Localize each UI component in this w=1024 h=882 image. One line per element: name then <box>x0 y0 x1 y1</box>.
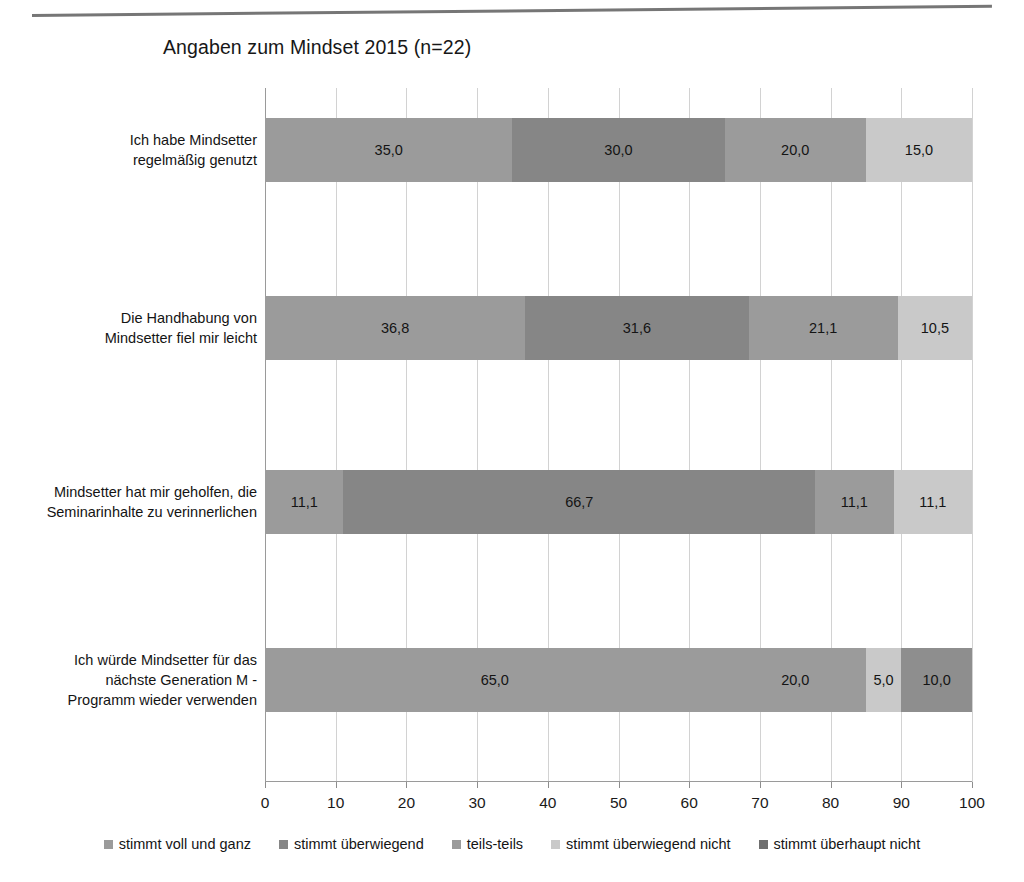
bar-segment-value: 20,0 <box>781 672 809 688</box>
bar-segment[interactable]: 10,0 <box>901 648 972 712</box>
bar-segment[interactable]: 5,0 <box>866 648 901 712</box>
bar-segment-value: 11,1 <box>919 494 946 510</box>
legend-swatch-icon <box>104 840 113 849</box>
legend-item[interactable]: stimmt überwiegend nicht <box>551 836 730 852</box>
bar-series-container: 35,030,020,015,036,831,621,110,511,166,7… <box>265 88 972 782</box>
bar-segment-value: 65,0 <box>481 672 509 688</box>
bar-segment[interactable]: 20,0 <box>725 648 866 712</box>
x-tick-label: 30 <box>468 794 485 812</box>
category-label-line: Mindsetter hat mir geholfen, die <box>7 482 257 502</box>
bar-segment[interactable]: 21,1 <box>749 296 898 360</box>
bar-segment[interactable]: 20,0 <box>725 118 866 182</box>
legend-label: stimmt überwiegend <box>294 836 424 852</box>
category-label-line: Programm wieder verwenden <box>7 690 257 710</box>
x-tick <box>901 782 902 788</box>
legend-label: teils-teils <box>467 836 523 852</box>
legend-item[interactable]: stimmt voll und ganz <box>104 836 251 852</box>
category-label-line: Die Handhabung von <box>7 308 257 328</box>
bar-segment-value: 11,1 <box>841 494 868 510</box>
bar-segment-value: 11,1 <box>291 494 318 510</box>
bar-segment[interactable]: 66,7 <box>343 470 815 534</box>
category-label-line: Ich würde Mindsetter für das <box>7 650 257 670</box>
bar-row[interactable]: 35,030,020,015,0 <box>265 118 972 182</box>
bar-segment-value: 66,7 <box>565 494 593 510</box>
x-tick <box>972 782 973 788</box>
bar-segment[interactable]: 11,1 <box>265 470 343 534</box>
bar-segment[interactable]: 10,5 <box>898 296 972 360</box>
bar-row[interactable]: 11,166,711,111,1 <box>265 470 972 534</box>
bar-segment[interactable]: 30,0 <box>512 118 724 182</box>
legend-label: stimmt überhaupt nicht <box>774 836 921 852</box>
x-tick <box>265 782 266 788</box>
category-label-line: Seminarinhalte zu verinnerlichen <box>7 502 257 522</box>
legend-item[interactable]: teils-teils <box>452 836 523 852</box>
x-tick-label: 10 <box>327 794 344 812</box>
bar-segment[interactable]: 11,1 <box>894 470 972 534</box>
category-label-line: nächste Generation M - <box>7 670 257 690</box>
bar-segment[interactable]: 35,0 <box>265 118 512 182</box>
bar-segment[interactable]: 65,0 <box>265 648 725 712</box>
x-tick-label: 80 <box>822 794 839 812</box>
bar-segment-value: 15,0 <box>905 142 933 158</box>
x-tick <box>477 782 478 788</box>
x-tick-label: 50 <box>610 794 627 812</box>
x-tick <box>548 782 549 788</box>
x-tick-label: 60 <box>681 794 698 812</box>
legend-swatch-icon <box>551 840 560 849</box>
x-tick <box>619 782 620 788</box>
bar-segment[interactable]: 15,0 <box>866 118 972 182</box>
bar-segment-value: 21,1 <box>809 320 837 336</box>
x-tick-label: 90 <box>893 794 910 812</box>
gridline <box>972 88 973 782</box>
x-tick <box>336 782 337 788</box>
legend-swatch-icon <box>279 840 288 849</box>
legend-swatch-icon <box>452 840 461 849</box>
category-label: Ich habe Mindsetterregelmäßig genutzt <box>7 130 257 170</box>
x-tick-label: 0 <box>261 794 270 812</box>
legend-item[interactable]: stimmt überwiegend <box>279 836 424 852</box>
chart-legend: stimmt voll und ganzstimmt überwiegendte… <box>0 836 1024 852</box>
stacked-bar-chart: Angaben zum Mindset 2015 (n=22) Ich habe… <box>0 0 1024 882</box>
plot-area: 35,030,020,015,036,831,621,110,511,166,7… <box>265 88 972 782</box>
bar-segment[interactable]: 31,6 <box>525 296 748 360</box>
bar-segment-value: 30,0 <box>604 142 632 158</box>
legend-item[interactable]: stimmt überhaupt nicht <box>759 836 921 852</box>
bar-segment-value: 31,6 <box>623 320 651 336</box>
category-label: Die Handhabung vonMindsetter fiel mir le… <box>7 308 257 348</box>
category-label-line: regelmäßig genutzt <box>7 150 257 170</box>
bar-segment-value: 20,0 <box>781 142 809 158</box>
bar-segment[interactable]: 36,8 <box>265 296 525 360</box>
bar-segment-value: 10,0 <box>923 672 951 688</box>
legend-swatch-icon <box>759 840 768 849</box>
bar-segment-value: 35,0 <box>375 142 403 158</box>
x-tick <box>831 782 832 788</box>
x-tick-label: 20 <box>398 794 415 812</box>
category-label-line: Ich habe Mindsetter <box>7 130 257 150</box>
bar-row[interactable]: 65,020,05,010,0 <box>265 648 972 712</box>
bar-segment-value: 36,8 <box>381 320 409 336</box>
x-tick-label: 40 <box>539 794 556 812</box>
x-tick <box>689 782 690 788</box>
x-tick <box>760 782 761 788</box>
x-tick-label: 70 <box>751 794 768 812</box>
category-label: Ich würde Mindsetter für dasnächste Gene… <box>7 650 257 710</box>
bar-segment-value: 5,0 <box>874 672 894 688</box>
bar-segment-value: 10,5 <box>921 320 949 336</box>
legend-label: stimmt überwiegend nicht <box>566 836 730 852</box>
bar-segment[interactable]: 11,1 <box>815 470 893 534</box>
category-label: Mindsetter hat mir geholfen, dieSeminari… <box>7 482 257 522</box>
x-tick-label: 100 <box>959 794 985 812</box>
bar-row[interactable]: 36,831,621,110,5 <box>265 296 972 360</box>
legend-label: stimmt voll und ganz <box>119 836 251 852</box>
x-tick <box>406 782 407 788</box>
category-label-line: Mindsetter fiel mir leicht <box>7 328 257 348</box>
